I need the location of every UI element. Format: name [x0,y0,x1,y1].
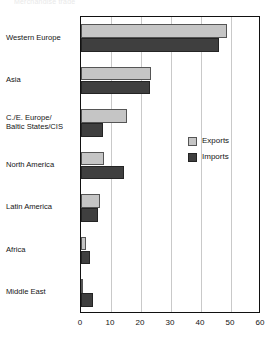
category-label-line: Baltic States/CIS [6,122,78,131]
category-label: Asia [6,75,78,84]
horizontal-bar-chart: Western EuropeAsiaC./E. Europe/Baltic St… [0,0,275,347]
bar-group [81,229,259,271]
x-tick-60: 60 [248,318,272,328]
bar-group [81,17,259,59]
legend-label-exports: Exports [202,136,229,146]
category-label: Latin America [6,202,78,211]
bar-group [81,272,259,313]
legend-swatch-imports [188,153,197,162]
legend-label-imports: Imports [202,152,229,162]
bar-imports [81,208,98,222]
bar-imports [81,123,103,137]
chart-legend: ExportsImports [188,133,252,165]
bar-imports [81,38,219,52]
category-label-line: Africa [6,245,78,254]
bar-group [81,187,259,229]
category-label: Middle East [6,287,78,296]
legend-entry-exports: Exports [188,133,252,149]
bar-exports [81,237,86,251]
category-label: North America [6,160,78,169]
category-label-line: North America [6,160,78,169]
bar-imports [81,166,124,180]
x-tick-50: 50 [218,318,242,328]
category-label-line: Middle East [6,287,78,296]
category-label-line: C./E. Europe/ [6,113,78,122]
legend-entry-imports: Imports [188,149,252,165]
x-tick-0: 0 [68,318,92,328]
x-tick-10: 10 [98,318,122,328]
bar-imports [81,251,90,265]
category-label-line: Asia [6,75,78,84]
bar-exports [81,67,151,81]
bar-group [81,59,259,101]
bar-imports [81,293,93,307]
x-tick-20: 20 [128,318,152,328]
category-label-line: Latin America [6,202,78,211]
category-label: Africa [6,245,78,254]
bar-exports [81,24,227,38]
category-label: C./E. Europe/Baltic States/CIS [6,113,78,131]
bar-exports [81,279,83,293]
x-tick-30: 30 [158,318,182,328]
bar-exports [81,109,127,123]
bar-exports [81,194,100,208]
category-label-line: Western Europe [6,33,78,42]
bar-exports [81,152,104,166]
bar-imports [81,81,150,95]
x-tick-40: 40 [188,318,212,328]
legend-swatch-exports [188,137,197,146]
category-label: Western Europe [6,33,78,42]
